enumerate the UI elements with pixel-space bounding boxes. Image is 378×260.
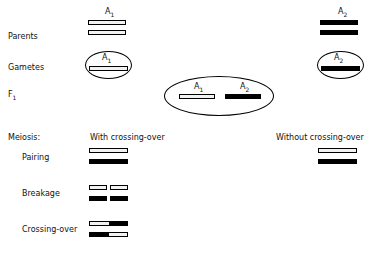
parent-left-chromosome-2 [88,30,126,35]
f1-chromosome-a1 [179,94,215,99]
recomb-1-light-half [90,222,109,225]
recomb-2-light-half [109,233,128,236]
breakage-light-segment-right [110,185,128,190]
pairing-with-chromosome-light [89,148,128,153]
crossing-over-diagram: Parents Gametes F1 Meiosis: Pairing Brea… [0,0,378,260]
parent-left-chromosome-1 [88,20,126,25]
allele-label-gamete-left: A1 [102,54,111,64]
breakage-dark-segment-right [110,196,128,201]
allele-label-f1-left: A1 [194,83,203,93]
row-label-crossing-over: Crossing-over [22,226,77,234]
column-header-without-crossing-over: Without crossing-over [276,134,364,142]
recomb-2-dark-half [90,233,109,236]
pairing-without-chromosome-dark [318,159,357,164]
recomb-1-dark-half [109,222,128,225]
row-label-meiosis: Meiosis: [8,134,40,142]
allele-label-parent-right: A2 [338,8,347,18]
row-label-pairing: Pairing [22,154,49,162]
pairing-without-chromosome-light [318,148,357,153]
f1-subscript: 1 [13,94,17,101]
allele-label-f1-right: A2 [240,83,249,93]
pairing-with-chromosome-dark [89,159,128,164]
allele-label-gamete-right: A2 [334,54,343,64]
gamete-right-chromosome [321,66,360,71]
parent-right-chromosome-1 [320,20,358,25]
crossover-recombinant-light-dark [89,221,128,226]
row-label-gametes: Gametes [8,64,44,72]
gamete-left-chromosome [89,66,128,71]
row-label-parents: Parents [8,33,38,41]
row-label-breakage: Breakage [22,190,60,198]
allele-label-parent-left: A1 [105,8,114,18]
breakage-light-segment-left [89,185,107,190]
parent-right-chromosome-2 [320,30,358,35]
f1-chromosome-a2 [225,94,261,99]
crossover-recombinant-dark-light [89,232,128,237]
breakage-dark-segment-left [89,196,107,201]
column-header-with-crossing-over: With crossing-over [90,134,165,142]
row-label-f1: F1 [8,91,16,101]
